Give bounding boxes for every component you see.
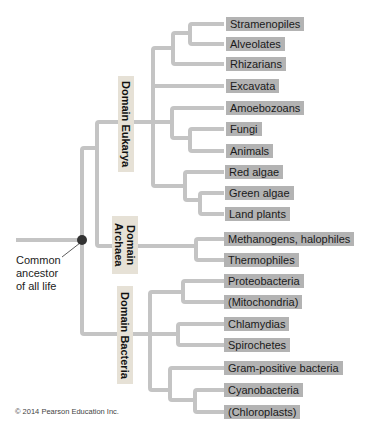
leaf-cyanobacteria: Cyanobacteria: [224, 383, 303, 397]
leaf-green-algae: Green algae: [225, 186, 294, 200]
leaf-chloroplasts: (Chloroplasts): [224, 405, 300, 419]
leaf-gram-positive-bacteria: Gram-positive bacteria: [224, 361, 343, 375]
ancestor-line1: Common: [16, 254, 61, 267]
leaf-red-algae: Red algae: [225, 165, 283, 179]
ancestor-node-icon: [77, 235, 87, 245]
ancestor-line2: ancestor: [16, 267, 61, 280]
leaf-thermophiles: Thermophiles: [224, 253, 299, 267]
leaf-chlamydias: Chlamydias: [224, 317, 289, 331]
common-ancestor-label: Common ancestor of all life: [16, 254, 61, 293]
ancestor-line3: of all life: [16, 280, 61, 293]
domain-bacteria-box: Domain Bacteria: [117, 286, 133, 384]
domain-archaea-line1: Domain: [125, 225, 137, 265]
leaf-spirochetes: Spirochetes: [224, 338, 290, 352]
domain-eukarya-box: Domain Eukarya: [118, 76, 134, 172]
eukarya-main: [153, 48, 185, 186]
domain-archaea-line2: Archaea: [113, 223, 125, 266]
domain-archaea-label: Domain Archaea: [113, 223, 137, 266]
ancestor-pointer: [62, 243, 80, 257]
domain-eukarya-label: Domain Eukarya: [120, 81, 132, 167]
leaf-mitochondria: (Mitochondria): [224, 295, 302, 309]
copyright-notice: © 2014 Pearson Education Inc.: [15, 407, 119, 416]
leaf-alveolates: Alveolates: [226, 37, 285, 51]
domain-bacteria-label: Domain Bacteria: [119, 292, 131, 379]
leaf-excavata: Excavata: [226, 79, 279, 93]
leaf-animals: Animals: [226, 144, 273, 158]
domain-archaea-box: Domain Archaea: [112, 216, 138, 274]
leaf-land-plants: Land plants: [225, 207, 290, 221]
leaf-methanogens-halophiles: Methanogens, halophiles: [224, 232, 354, 246]
leaf-stramenopiles: Stramenopiles: [226, 17, 304, 31]
leaf-rhizarians: Rhizarians: [226, 57, 286, 71]
leaf-proteobacteria: Proteobacteria: [224, 274, 304, 288]
leaf-fungi: Fungi: [226, 122, 262, 136]
leaf-amoebozoans: Amoebozoans: [226, 101, 304, 115]
